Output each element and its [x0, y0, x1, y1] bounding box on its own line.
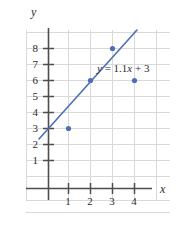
- equation-slope: 1.1: [114, 62, 128, 74]
- y-tick-label-4: 4: [22, 107, 38, 118]
- y-tick-label-7: 7: [22, 59, 38, 70]
- y-tick-label-6: 6: [22, 75, 38, 86]
- x-tick-label-3: 3: [105, 196, 119, 207]
- x-tick-label-4: 4: [127, 196, 141, 207]
- data-point: [132, 78, 137, 83]
- scatter-plot-figure: y x 8 7 6 5 4 3 2 1 1 2 3 4 y = 1.1x + 3: [0, 0, 186, 225]
- y-axis-label: y: [31, 6, 36, 18]
- x-tick-label-1: 1: [61, 196, 75, 207]
- data-point: [88, 78, 93, 83]
- data-point: [110, 46, 115, 51]
- y-tick-label-8: 8: [22, 43, 38, 54]
- y-tick-label-2: 2: [22, 139, 38, 150]
- equation-plus: +: [132, 62, 144, 74]
- x-tick-label-2: 2: [83, 196, 97, 207]
- y-tick-label-5: 5: [22, 91, 38, 102]
- y-tick-label-3: 3: [22, 123, 38, 134]
- x-axis-label: x: [160, 183, 165, 195]
- y-tick-label-1: 1: [22, 155, 38, 166]
- equation-equals: =: [102, 62, 114, 74]
- equation-intercept: 3: [144, 62, 150, 74]
- equation-annotation: y = 1.1x + 3: [97, 63, 149, 74]
- data-point: [66, 126, 71, 131]
